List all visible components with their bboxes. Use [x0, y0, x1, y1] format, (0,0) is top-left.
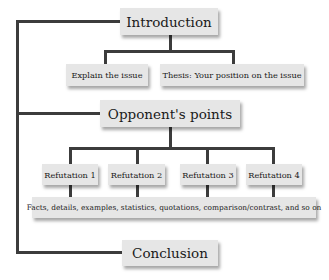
refutation-1-box: Refutation 1 [42, 164, 98, 185]
refutation-2-box: Refutation 2 [108, 164, 165, 185]
opp-stem [169, 127, 172, 149]
spine-top [16, 20, 120, 23]
ref1-down [69, 185, 72, 197]
spine-vertical [16, 20, 19, 254]
ref1-drop [69, 147, 72, 164]
intro-right-drop [232, 50, 235, 64]
opp-bar [69, 147, 275, 150]
ref4-down [272, 185, 275, 197]
ref4-drop [272, 147, 275, 164]
ref3-drop [206, 147, 209, 164]
thesis-box: Thesis: Your position on the issue [160, 64, 304, 86]
opponent-points-box: Opponent's points [100, 100, 240, 127]
ref2-drop [136, 147, 139, 164]
spine-to-opponent [16, 112, 100, 115]
intro-left-drop [104, 50, 107, 64]
evidence-box: Facts, details, examples, statistics, qu… [32, 197, 316, 218]
ref3-down [206, 185, 209, 197]
explain-issue-box: Explain the issue [66, 64, 148, 86]
intro-bar [104, 50, 235, 53]
refutation-4-box: Refutation 4 [246, 164, 302, 185]
conclusion-box: Conclusion [122, 240, 218, 266]
spine-bottom [16, 251, 122, 254]
ref2-down [136, 185, 139, 197]
refutation-3-box: Refutation 3 [180, 164, 236, 185]
introduction-box: Introduction [120, 8, 218, 35]
